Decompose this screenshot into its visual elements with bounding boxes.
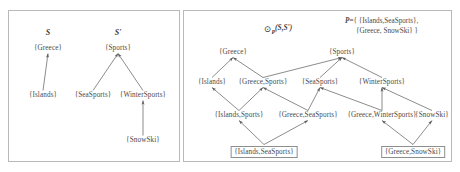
node-r-seasports: {SeaSports} — [302, 79, 339, 86]
node-r-greece-sports: {Greece,Sports} — [239, 79, 288, 86]
circled-dot-icon: ⊙ — [264, 24, 272, 34]
node-l-greece: {Greece} — [34, 45, 62, 52]
node-r-greece-winter: {Greece,WinterSports} — [347, 112, 416, 119]
node-l-wintersports: {WinterSports} — [120, 92, 166, 99]
node-r-greece-snowski: {Greece,SnowSki} — [381, 146, 445, 158]
node-r-wintersports: {WinterSports} — [359, 79, 405, 86]
node-l-seasports: {SeaSports} — [75, 92, 112, 99]
node-l-islands: {Islands} — [29, 92, 57, 99]
node-r-greece: {Greece} — [219, 49, 247, 56]
legend-line-1: { {Islands,SeaSports}, — [353, 17, 418, 25]
operator-label: ⊙P(S,S') — [264, 23, 292, 35]
node-r-islands-seasp: {Islands,SeaSports} — [231, 146, 298, 158]
panel-title-s: S — [46, 28, 50, 37]
node-r-snowski: {SnowSki} — [415, 112, 449, 119]
figure-canvas: SS' {Greece}{Sports}{Islands}{SeaSports}… — [0, 0, 460, 172]
node-r-sports: {Sports} — [329, 49, 355, 56]
legend-line-2: {Greece, SnowSki} } — [345, 26, 418, 36]
node-l-snowski: {SnowSki} — [126, 137, 160, 144]
panel-title-s-prime: S' — [115, 28, 122, 37]
node-r-greece-seasp: {Greece,SeaSports} — [278, 112, 338, 119]
node-l-sports: {Sports} — [105, 45, 131, 52]
legend-p-definition: P={ {Islands,SeaSports}, {Greece, SnowSk… — [345, 16, 418, 36]
operator-arguments: (S,S') — [275, 23, 292, 32]
node-r-islands-sports: {Islands,Sports} — [214, 112, 263, 119]
node-r-islands: {Islands} — [198, 79, 226, 86]
